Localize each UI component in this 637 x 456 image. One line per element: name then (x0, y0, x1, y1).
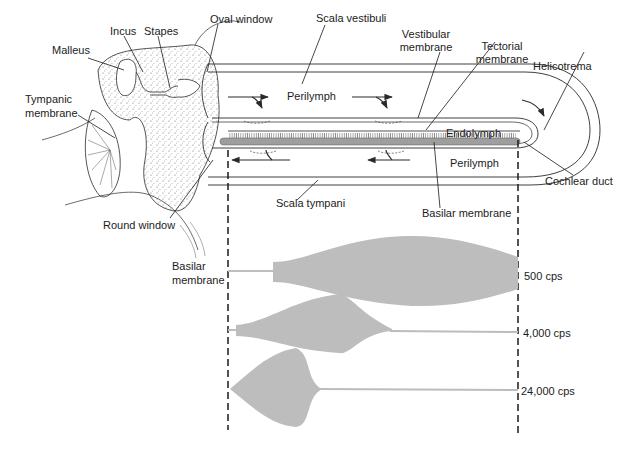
label-freq-24000: 24,000 cps (521, 385, 575, 398)
label-incus: Incus (110, 25, 136, 38)
label-malleus: Malleus (52, 44, 90, 57)
label-cochlear-duct: Cochlear duct (545, 175, 613, 188)
label-perilymph-upper: Perilymph (287, 90, 336, 103)
label-helicotrema: Helicotrema (533, 60, 592, 73)
label-tympanic-membrane: Tympanic membrane (25, 92, 78, 120)
label-scala-vestibuli: Scala vestibuli (316, 12, 386, 25)
label-basilar-membrane: Basilar membrane (422, 207, 511, 220)
label-freq-500: 500 cps (524, 270, 563, 283)
envelope-500cps (228, 236, 518, 306)
envelope-24000cps (230, 348, 518, 427)
cochlea-tube (202, 64, 600, 185)
label-endolymph: Endolymph (446, 127, 501, 140)
envelope-4000cps (228, 294, 518, 353)
label-vestibular-membrane: Vestibular membrane (396, 28, 456, 54)
label-tectorial-membrane: Tectorial membrane (470, 40, 534, 66)
label-scala-tympani: Scala tympani (276, 197, 345, 210)
label-oval-window: Oval window (210, 13, 272, 26)
label-freq-4000: 4,000 cps (523, 327, 571, 340)
label-stapes: Stapes (144, 25, 178, 38)
label-round-window: Round window (103, 219, 175, 232)
label-basilar-membrane-side: Basilar membrane (172, 259, 225, 287)
label-perilymph-lower: Perilymph (450, 157, 499, 170)
